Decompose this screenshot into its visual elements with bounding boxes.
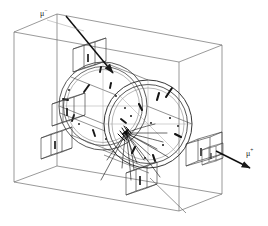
far-ring-hit-dots xyxy=(68,89,126,140)
outgoing-muon-charge: + xyxy=(250,147,253,153)
outgoing-muon-label: μ+ xyxy=(246,150,253,158)
interaction-vertex xyxy=(124,131,127,134)
particle-tracks xyxy=(101,124,168,180)
incoming-muon-charge: − xyxy=(44,7,47,13)
near-ring-hit-dots xyxy=(130,115,179,159)
event-display-figure: μ− μ+ xyxy=(0,0,268,226)
module-right-small xyxy=(202,143,223,165)
detector-event-drawing xyxy=(0,0,268,226)
outgoing-muon-arrow xyxy=(216,151,250,168)
incoming-muon-label: μ− xyxy=(40,10,47,18)
bounding-box-front-face xyxy=(14,32,179,211)
incoming-leader-line xyxy=(47,20,84,31)
downward-exit-track xyxy=(150,178,186,213)
